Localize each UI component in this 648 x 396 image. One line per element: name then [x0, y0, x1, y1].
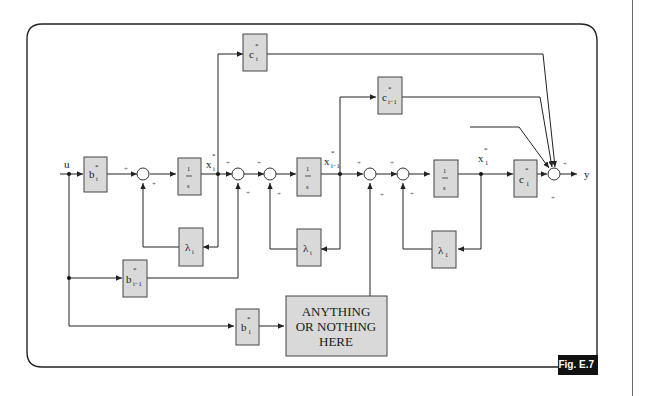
page-divider	[632, 0, 633, 396]
svg-text:+: +	[124, 165, 128, 173]
feedback-block-lambda-i: λ i	[179, 228, 203, 266]
svg-text:c: c	[382, 91, 387, 103]
svg-text:ANYTHING: ANYTHING	[302, 304, 371, 319]
svg-text:λ: λ	[185, 241, 191, 253]
svg-text:c: c	[519, 173, 524, 185]
svg-text:1: 1	[445, 251, 448, 258]
summing-junction	[397, 168, 409, 180]
svg-text:*: *	[133, 266, 137, 274]
summing-junction	[137, 168, 149, 180]
gain-block-c-i-1: c i−1 *	[378, 77, 402, 114]
output-label-y: y	[584, 168, 590, 180]
svg-text:+: +	[257, 159, 261, 167]
svg-text:1: 1	[443, 167, 446, 174]
svg-text:c: c	[249, 48, 254, 60]
output-summing-junction	[548, 168, 560, 180]
state-label-xi: x i *	[206, 152, 216, 172]
gain-block-c-i: c i *	[243, 34, 267, 71]
summing-junction	[364, 168, 376, 180]
svg-text:*: *	[331, 149, 335, 157]
svg-text:*: *	[484, 146, 488, 154]
svg-text:x: x	[324, 155, 330, 167]
svg-text:1: 1	[248, 328, 251, 335]
svg-text:+: +	[380, 191, 384, 199]
state-label-xi-1: x i−1 *	[324, 149, 340, 169]
svg-text:OR NOTHING: OR NOTHING	[296, 319, 377, 334]
input-label-u: u	[64, 158, 70, 170]
svg-text:i: i	[213, 165, 215, 172]
svg-text:*: *	[525, 166, 529, 174]
svg-text:+: +	[551, 194, 555, 202]
svg-text:1: 1	[187, 165, 190, 172]
summing-junction	[264, 168, 276, 180]
svg-text:1: 1	[526, 180, 529, 187]
svg-text:HERE: HERE	[319, 334, 353, 349]
svg-text:*: *	[95, 163, 99, 171]
integrator-block-2: 1 s	[297, 158, 321, 196]
svg-text:+: +	[357, 159, 361, 167]
svg-text:i−1: i−1	[133, 280, 142, 287]
svg-text:i−1: i−1	[331, 162, 340, 169]
svg-text:λ: λ	[438, 244, 444, 256]
svg-text:i: i	[256, 55, 258, 62]
svg-text:+: +	[152, 180, 156, 188]
svg-text:+: +	[277, 190, 281, 198]
svg-text:i: i	[192, 248, 194, 255]
svg-text:+: +	[390, 159, 394, 167]
feedback-block-lambda-i-2: λ i	[297, 229, 321, 266]
svg-text:*: *	[212, 152, 216, 160]
summing-junction	[232, 168, 244, 180]
integrator-block-3: 1 s	[434, 160, 458, 197]
gain-block-b-1: b 1 *	[236, 309, 259, 345]
gain-block-c-1: c 1 *	[514, 160, 537, 197]
state-label-x1: x 1 *	[478, 146, 488, 166]
svg-text:+: +	[226, 159, 230, 167]
svg-text:i: i	[310, 249, 312, 256]
diagram-canvas: + + + + + + + + + + + + + u y x i * x i−…	[0, 0, 648, 396]
svg-text:1: 1	[306, 165, 309, 172]
integrator-block-1: 1 s	[178, 158, 201, 195]
feedback-block-lambda-1: λ 1	[432, 231, 456, 268]
svg-text:λ: λ	[303, 242, 309, 254]
svg-text:+: +	[543, 170, 547, 178]
svg-text:*: *	[255, 42, 259, 50]
placeholder-block: ANYTHING OR NOTHING HERE	[286, 296, 387, 356]
block-diagram: + + + + + + + + + + + + + u y x i * x i−…	[0, 0, 648, 396]
svg-text:+: +	[563, 160, 567, 168]
figure-label: Fig. E.7	[558, 355, 598, 375]
gain-block-b-i-1: b i−1 *	[123, 260, 147, 297]
svg-text:*: *	[388, 85, 392, 93]
gain-block-b-i: b i *	[84, 157, 107, 192]
svg-text:i: i	[96, 175, 98, 182]
svg-text:+: +	[410, 190, 414, 198]
svg-text:1: 1	[485, 159, 488, 166]
svg-text:*: *	[247, 315, 251, 323]
svg-text:+: +	[246, 189, 250, 197]
svg-text:i−1: i−1	[388, 98, 397, 105]
svg-text:b: b	[126, 273, 132, 285]
